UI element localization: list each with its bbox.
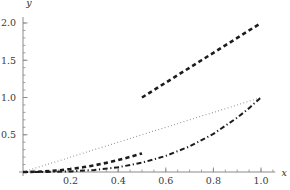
labels-layer: 0.20.40.60.81.00.51.01.52.0xy — [1, 0, 288, 186]
y-axis-tick-label: 2.0 — [1, 17, 16, 28]
series-dotted-line — [23, 98, 261, 173]
y-axis-tick-label: 1.0 — [1, 92, 16, 103]
chart-canvas: 0.20.40.60.81.00.51.01.52.0xy — [0, 0, 290, 190]
x-axis-tick-label: 0.2 — [63, 175, 78, 186]
x-axis-tick-label: 0.4 — [111, 175, 126, 186]
x-axis-tick-label: 0.8 — [206, 175, 221, 186]
series-dash-dot-curve — [23, 98, 261, 173]
axes-layer — [19, 17, 275, 176]
y-axis-label: y — [25, 0, 32, 8]
x-axis-tick-label: 1.0 — [253, 175, 268, 186]
plot-figure: 0.20.40.60.81.00.51.01.52.0xy — [0, 0, 290, 190]
series-layer — [23, 23, 261, 172]
y-axis-tick-label: 0.5 — [1, 129, 16, 140]
x-axis-tick-label: 0.6 — [158, 175, 173, 186]
series-dashed-upper-branch — [142, 23, 261, 98]
x-axis-label: x — [282, 167, 288, 178]
y-axis-tick-label: 1.5 — [1, 55, 16, 66]
series-dashed-lower-branch — [23, 153, 142, 172]
